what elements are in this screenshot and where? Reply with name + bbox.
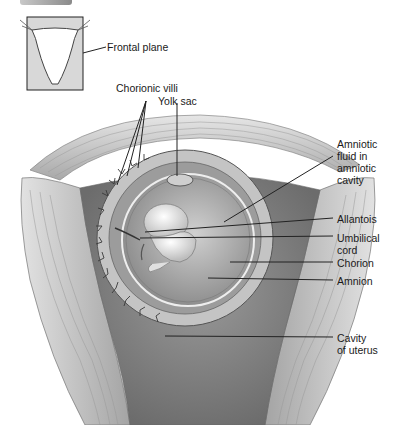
- label-umbilical-cord: Umbilical cord: [337, 232, 380, 256]
- label-chorionic-villi: Chorionic villi: [116, 82, 178, 94]
- label-allantois: Allantois: [337, 213, 377, 225]
- frontal-plane-inset: [20, 17, 106, 90]
- label-frontal-plane: Frontal plane: [107, 41, 168, 53]
- label-amniotic-fluid: Amniotic fluid in amniotic cavity: [337, 138, 377, 186]
- label-yolk-sac: Yolk sac: [158, 95, 197, 107]
- label-chorion: Chorion: [337, 257, 374, 269]
- diagram-canvas: Frontal plane Chorionic villi Yolk sac A…: [0, 0, 396, 425]
- label-amnion: Amnion: [337, 275, 373, 287]
- label-cavity-of-uterus: Cavity of uterus: [337, 332, 378, 356]
